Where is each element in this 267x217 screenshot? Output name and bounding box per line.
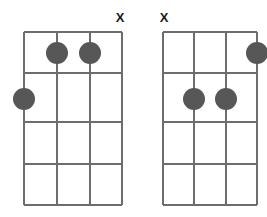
finger-dot-string-1-fret-2 bbox=[13, 88, 35, 110]
diagram-layer: XX bbox=[13, 10, 267, 205]
chord-diagram-stage: XX bbox=[0, 0, 267, 217]
chord-diagrams-canvas: XX bbox=[0, 0, 267, 217]
finger-dot-string-2-fret-2 bbox=[183, 88, 205, 110]
mute-marker-string-1: X bbox=[160, 10, 169, 25]
finger-dot-string-3-fret-1 bbox=[79, 42, 101, 64]
finger-dot-string-2-fret-1 bbox=[46, 42, 68, 64]
chord-diagram-left: X bbox=[13, 10, 125, 205]
finger-dot-string-3-fret-2 bbox=[215, 88, 237, 110]
chord-diagram-right: X bbox=[160, 10, 267, 205]
finger-dot-string-4-fret-1 bbox=[246, 42, 267, 64]
mute-marker-string-4: X bbox=[116, 10, 125, 25]
